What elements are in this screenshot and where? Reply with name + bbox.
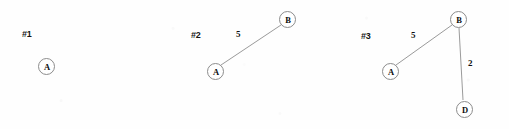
edge-weight-label: 5 xyxy=(236,29,241,39)
node-layer: #1A5#2AB52#3ABD xyxy=(0,0,509,129)
node-label: A xyxy=(383,64,400,81)
node-label: A xyxy=(39,59,56,76)
graph-caption-1: #1 xyxy=(22,29,31,39)
node-label: D xyxy=(457,102,474,119)
graph-caption-2: #2 xyxy=(191,30,200,40)
node-label: B xyxy=(451,12,468,29)
edge-weight-label: 2 xyxy=(468,58,473,68)
graph-caption-3: #3 xyxy=(361,31,370,41)
node-B[interactable]: B xyxy=(450,11,467,28)
graph-figure: #1A5#2AB52#3ABD xyxy=(0,0,509,129)
node-A[interactable]: A xyxy=(38,58,55,75)
node-label: B xyxy=(280,12,297,29)
node-A[interactable]: A xyxy=(207,63,224,80)
edge-weight-label: 5 xyxy=(411,30,416,40)
node-B[interactable]: B xyxy=(279,11,296,28)
node-D[interactable]: D xyxy=(456,101,473,118)
node-label: A xyxy=(208,64,225,81)
node-A[interactable]: A xyxy=(382,63,399,80)
